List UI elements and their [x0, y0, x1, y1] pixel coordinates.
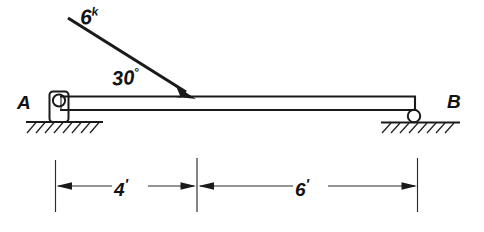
load-angle-label: 30° — [111, 66, 139, 88]
degree-symbol: ° — [133, 65, 139, 79]
pin-support-a — [26, 92, 103, 134]
roller-support-b — [381, 110, 460, 133]
dimension-4ft-unit-tick: ' — [125, 175, 129, 192]
beam-diagram-figure: 6k 30° A B 4' 6' — [0, 0, 484, 232]
beam-member — [60, 97, 416, 111]
diagram-canvas — [0, 0, 484, 232]
dim6-arrowhead-left — [199, 182, 215, 190]
dimension-extension-lines — [56, 158, 418, 212]
load-angle-value: 30 — [111, 66, 135, 89]
support-a-label: A — [17, 93, 31, 112]
dimension-label-4ft: 4' — [114, 176, 128, 199]
load-unit-superscript: k — [91, 5, 98, 19]
dim4-arrowhead-right — [181, 182, 197, 190]
load-magnitude-label: 6k — [79, 6, 98, 28]
roller-circle-b — [408, 110, 420, 122]
ground-hatching-b — [382, 123, 454, 133]
pin-circle-a — [53, 94, 65, 106]
dimension-label-6ft: 6' — [295, 176, 309, 199]
dimension-6ft-value: 6 — [295, 179, 306, 200]
ground-hatching-a — [27, 123, 99, 134]
support-b-label: B — [447, 92, 461, 111]
dim4-arrowhead-left — [57, 182, 73, 190]
dim6-arrowhead-right — [402, 182, 418, 190]
dimension-4ft-value: 4 — [114, 179, 125, 200]
dimension-6ft-unit-tick: ' — [306, 175, 310, 192]
